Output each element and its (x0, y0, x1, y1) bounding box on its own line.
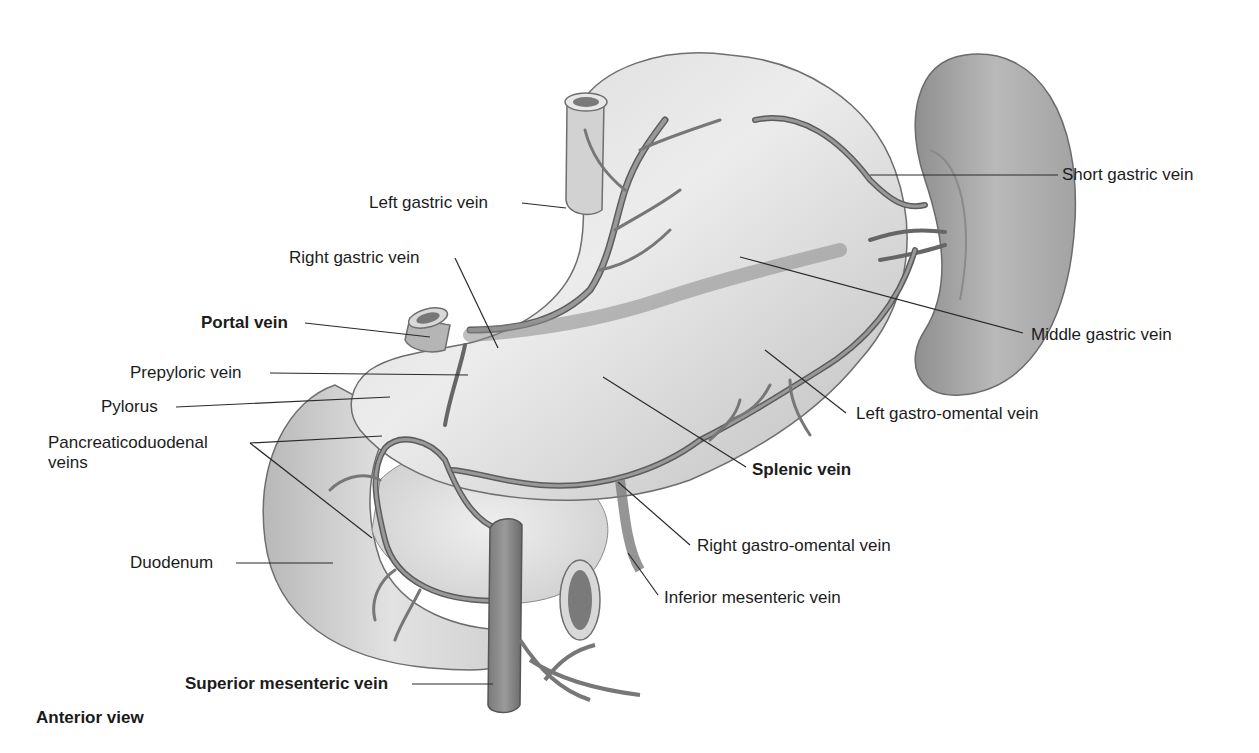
label-inferior-mesenteric-vein: Inferior mesenteric vein (664, 588, 841, 608)
label-pylorus: Pylorus (101, 397, 158, 417)
label-duodenum: Duodenum (130, 553, 213, 573)
label-short-gastric-vein: Short gastric vein (1062, 165, 1193, 185)
view-label: Anterior view (36, 708, 144, 728)
label-prepyloric-vein: Prepyloric vein (130, 363, 242, 383)
portal-system-figure: Left gastric vein Right gastric vein Por… (0, 0, 1259, 753)
label-left-gastro-omental-vein: Left gastro-omental vein (856, 404, 1038, 424)
label-right-gastric-vein: Right gastric vein (289, 248, 419, 268)
label-superior-mesenteric-vein: Superior mesenteric vein (185, 674, 388, 694)
label-middle-gastric-vein: Middle gastric vein (1031, 325, 1172, 345)
label-right-gastro-omental-vein: Right gastro-omental vein (697, 536, 891, 556)
label-portal-vein: Portal vein (201, 313, 288, 333)
label-pancreaticoduodenal-veins-line2: veins (48, 453, 88, 473)
label-pancreaticoduodenal-veins-line1: Pancreaticoduodenal (48, 433, 208, 453)
jejunum-cut-end (560, 560, 600, 640)
stomach (351, 53, 907, 500)
label-splenic-vein: Splenic vein (752, 460, 851, 480)
label-left-gastric-vein: Left gastric vein (369, 193, 488, 213)
portal-vein-shape (405, 304, 450, 352)
